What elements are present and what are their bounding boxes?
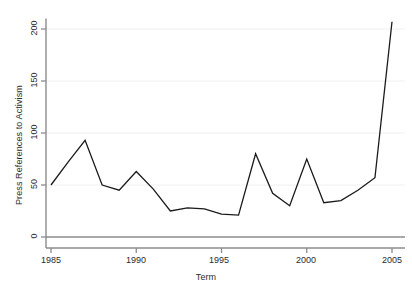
- plot-area: [0, 0, 412, 292]
- axis-ticks: [41, 29, 392, 253]
- chart-container: Press References to Activism Term 200 15…: [0, 0, 412, 292]
- data-line-series: [51, 22, 392, 215]
- gridlines: [46, 29, 405, 237]
